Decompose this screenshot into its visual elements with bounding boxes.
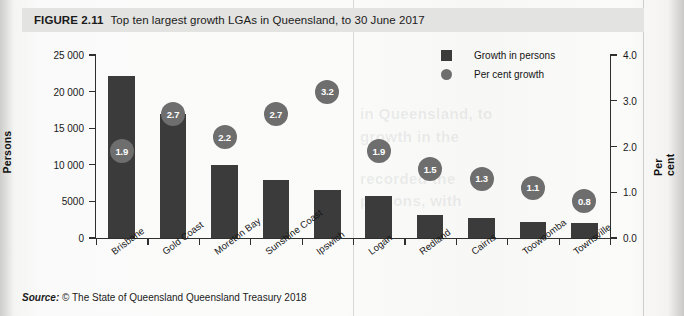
- y-axis-left-tick: [89, 128, 96, 129]
- figure-number: FIGURE 2.11: [34, 14, 104, 26]
- y-axis-right-tick-label: 4.0: [623, 50, 663, 61]
- legend-square-icon: [441, 50, 452, 61]
- legend-label: Growth in persons: [474, 50, 555, 61]
- x-axis-tick: [507, 238, 508, 245]
- y-axis-right-tick-label: 1.0: [623, 187, 663, 198]
- y-axis-left-tick-label: 20 000: [22, 86, 84, 97]
- bubble-data-point: 0.8: [572, 189, 596, 213]
- y-axis-left-title: Persons: [1, 131, 13, 174]
- x-axis-tick: [96, 238, 97, 245]
- bar: [211, 165, 238, 238]
- x-axis-tick: [559, 238, 560, 245]
- y-axis-right-tick: [610, 192, 617, 193]
- bubble-data-point: 1.5: [418, 157, 442, 181]
- legend-item-growth-in-persons: Growth in persons: [441, 46, 611, 65]
- y-axis-left-tick-label: 5000: [22, 196, 84, 207]
- y-axis-left-tick: [89, 201, 96, 202]
- y-axis-right-tick: [610, 100, 617, 101]
- y-axis-left-tick-label: 10 000: [22, 159, 84, 170]
- y-axis-right-tick-label: 0.0: [623, 233, 663, 244]
- bubble-data-point: 2.7: [264, 102, 288, 126]
- source-label: Source:: [22, 292, 59, 303]
- legend-label: Per cent growth: [474, 69, 544, 80]
- y-axis-right-tick: [610, 54, 617, 55]
- y-axis-left-tick-label: 15 000: [22, 123, 84, 134]
- x-axis-tick: [456, 238, 457, 245]
- bubble-data-point: 1.9: [110, 139, 134, 163]
- x-axis-tick: [353, 238, 354, 245]
- x-axis-tick: [610, 238, 611, 245]
- y-axis-left-tick: [89, 237, 96, 238]
- bubble-data-point: 1.1: [521, 176, 545, 200]
- y-axis-left-tick-label: 25 000: [22, 50, 84, 61]
- source-text: © The State of Queensland Queensland Tre…: [62, 292, 307, 303]
- bubble-data-point: 1.3: [470, 167, 494, 191]
- source-note: Source: © The State of Queensland Queens…: [22, 292, 307, 303]
- bar: [160, 114, 187, 238]
- y-axis-left-tick: [89, 91, 96, 92]
- chart-legend: Growth in persons Per cent growth: [441, 46, 611, 84]
- legend-item-per-cent-growth: Per cent growth: [441, 65, 611, 84]
- x-axis-tick: [199, 238, 200, 245]
- bubble-data-point: 2.2: [213, 125, 237, 149]
- y-axis-left-tick-label: 0: [22, 233, 84, 244]
- y-axis-left-tick: [89, 164, 96, 165]
- bubble-data-point: 3.2: [315, 80, 339, 104]
- legend-circle-icon: [441, 69, 452, 80]
- x-axis-tick: [250, 238, 251, 245]
- bar: [263, 180, 290, 238]
- y-axis-left-tick: [89, 54, 96, 55]
- bubble-data-point: 1.9: [367, 139, 391, 163]
- figure-title: Top ten largest growth LGAs in Queenslan…: [111, 14, 425, 26]
- x-axis-tick: [147, 238, 148, 245]
- y-axis-right-tick: [610, 146, 617, 147]
- y-axis-right-tick-label: 3.0: [623, 95, 663, 106]
- bubble-data-point: 2.7: [161, 102, 185, 126]
- figure-header-band: FIGURE 2.11 Top ten largest growth LGAs …: [22, 8, 644, 32]
- chart-area: Persons Per cent 0500010 00015 00020 000…: [0, 34, 684, 284]
- x-axis-tick: [302, 238, 303, 245]
- y-axis-right-tick-label: 2.0: [623, 141, 663, 152]
- x-axis-tick: [404, 238, 405, 245]
